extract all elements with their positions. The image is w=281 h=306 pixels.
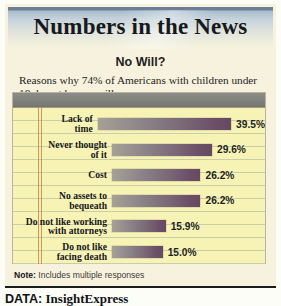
source-credit: DATA: InsightExpress	[5, 291, 128, 306]
bar	[112, 220, 166, 232]
bar-category-label: Never thoughtof it	[13, 140, 112, 160]
bar	[112, 144, 212, 156]
note-text: Includes multiple responses	[38, 270, 144, 280]
bar-value-label: 26.2%	[205, 195, 234, 206]
bar-value-label: 29.6%	[217, 144, 246, 155]
source-name: InsightExpress	[46, 291, 129, 306]
bar-value-label: 39.5%	[236, 119, 265, 130]
bar-category-label: Lack oftime	[13, 114, 98, 134]
chart-subtitle: No Will?	[5, 55, 276, 69]
bar-rows: Lack oftime39.5%Never thoughtof it29.6%C…	[13, 108, 265, 264]
bar-row: No assets tobequeath26.2%	[13, 188, 265, 214]
bar-value-label: 15.0%	[168, 247, 197, 258]
bar-row: Never thoughtof it29.6%	[13, 137, 265, 163]
bar-value-label: 26.2%	[205, 170, 234, 181]
chart-plot-area: Lack oftime39.5%Never thoughtof it29.6%C…	[13, 108, 265, 264]
bar	[112, 195, 200, 207]
page-title: Numbers in the News	[8, 14, 273, 40]
note-label: Note:	[14, 270, 36, 280]
chart-header-band	[13, 93, 265, 108]
bar-category-label: No assets tobequeath	[13, 191, 112, 211]
bar-row: Do not likefacing death15.0%	[13, 239, 265, 264]
bar-row: Do not like workingwith attorneys15.9%	[13, 213, 265, 239]
bar-row: Cost26.2%	[13, 162, 265, 188]
bar	[112, 169, 200, 181]
source-label: DATA:	[5, 292, 42, 306]
bar-category-label: Cost	[13, 170, 112, 180]
bar-category-label: Do not likefacing death	[13, 242, 112, 262]
bar-chart: Lack oftime39.5%Never thoughtof it29.6%C…	[12, 92, 266, 264]
chart-note: Note: Includes multiple responses	[14, 270, 144, 280]
source-divider	[5, 286, 276, 288]
title-banner: Numbers in the News	[8, 7, 273, 49]
bar	[112, 246, 163, 258]
bar-value-label: 15.9%	[171, 221, 200, 232]
bar-category-label: Do not like workingwith attorneys	[13, 217, 112, 237]
infographic-root: Numbers in the News No Will? Reasons why…	[0, 0, 281, 306]
bar-row: Lack oftime39.5%	[13, 111, 265, 137]
bar	[98, 118, 231, 130]
